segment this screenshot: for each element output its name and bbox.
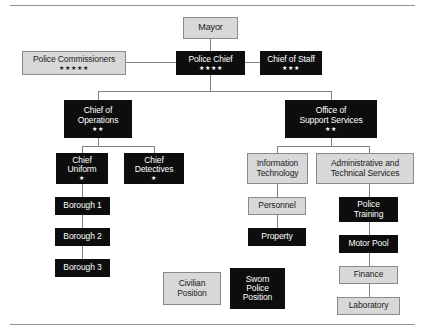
connector-bus-to-support-svcs bbox=[331, 91, 332, 100]
node-personnel-label: Personnel bbox=[258, 201, 295, 210]
connector-borough1-borough2 bbox=[82, 215, 83, 228]
connector-bus-to-info-tech bbox=[277, 146, 278, 153]
connector-bus-to-chief-ops bbox=[98, 91, 99, 100]
node-borough-1-label: Borough 1 bbox=[63, 201, 101, 210]
connector-police-training-motor-pool bbox=[369, 222, 370, 235]
legend-sworn-police-position: Sworn Police Position bbox=[230, 268, 285, 309]
connector-chief-ops-stem bbox=[98, 138, 99, 146]
node-police-commissioners-label: Police Commissioners bbox=[33, 55, 115, 64]
connector-info-tech-personnel bbox=[277, 184, 278, 197]
connector-finance-laboratory bbox=[369, 284, 370, 297]
node-information-technology-label: Information Technology bbox=[256, 159, 298, 177]
legend-sworn-police-position-label: Sworn Police Position bbox=[243, 275, 272, 303]
node-chief-detectives[interactable]: Chief Detectives ★ bbox=[124, 153, 184, 184]
node-borough-3[interactable]: Borough 3 bbox=[55, 259, 110, 277]
node-chief-of-operations-label: Chief of Operations bbox=[78, 106, 119, 124]
node-police-chief[interactable]: Police Chief ★★★★ bbox=[176, 51, 245, 75]
node-borough-2[interactable]: Borough 2 bbox=[55, 228, 110, 246]
node-motor-pool[interactable]: Motor Pool bbox=[339, 235, 398, 253]
legend-civilian-position-label: Civilian Position bbox=[177, 279, 206, 297]
node-police-training[interactable]: Police Training bbox=[339, 197, 398, 222]
org-chart-page: Mayor Police Commissioners ★★★★★ Police … bbox=[0, 0, 425, 335]
node-information-technology[interactable]: Information Technology bbox=[247, 153, 308, 184]
node-laboratory[interactable]: Laboratory bbox=[337, 297, 400, 315]
node-borough-1[interactable]: Borough 1 bbox=[55, 197, 110, 215]
top-divider-rule bbox=[10, 5, 415, 6]
node-administrative-technical-services-label: Administrative and Technical Services bbox=[331, 159, 400, 177]
node-property-label: Property bbox=[261, 232, 292, 241]
node-chief-detectives-label: Chief Detectives bbox=[135, 156, 174, 174]
node-chief-of-operations-stars: ★★ bbox=[92, 126, 104, 132]
legend-civilian-position: Civilian Position bbox=[163, 272, 221, 305]
connector-mayor-police-chief bbox=[210, 39, 211, 51]
connector-personnel-property bbox=[277, 215, 278, 228]
node-administrative-technical-services[interactable]: Administrative and Technical Services bbox=[316, 153, 414, 184]
node-finance-label: Finance bbox=[354, 270, 384, 279]
node-property[interactable]: Property bbox=[248, 228, 306, 246]
connector-chief-ops-bus bbox=[82, 146, 154, 147]
node-police-commissioners-stars: ★★★★★ bbox=[59, 65, 89, 71]
node-police-commissioners[interactable]: Police Commissioners ★★★★★ bbox=[22, 51, 126, 75]
node-police-training-label: Police Training bbox=[354, 200, 384, 218]
node-police-chief-label: Police Chief bbox=[188, 55, 232, 64]
connector-bus-to-admin-tech bbox=[369, 146, 370, 153]
node-chief-detectives-stars: ★ bbox=[151, 175, 157, 181]
node-personnel[interactable]: Personnel bbox=[248, 197, 306, 215]
node-finance[interactable]: Finance bbox=[339, 266, 398, 284]
node-laboratory-label: Laboratory bbox=[349, 301, 389, 310]
connector-motor-pool-finance bbox=[369, 253, 370, 266]
connector-bus-to-chief-uniform bbox=[82, 146, 83, 153]
node-mayor-label: Mayor bbox=[198, 23, 223, 33]
node-chief-of-staff-stars: ★★★ bbox=[282, 65, 300, 71]
node-borough-2-label: Borough 2 bbox=[63, 232, 101, 241]
node-borough-3-label: Borough 3 bbox=[63, 263, 101, 272]
node-police-chief-stars: ★★★★ bbox=[199, 65, 223, 71]
bottom-divider-rule bbox=[10, 324, 415, 325]
connector-police-chief-stem bbox=[210, 75, 211, 91]
node-chief-uniform[interactable]: Chief Uniform ★ bbox=[56, 153, 108, 184]
connector-chief-uniform-borough1 bbox=[82, 184, 83, 197]
node-chief-of-staff-label: Chief of Staff bbox=[267, 55, 315, 64]
node-chief-uniform-label: Chief Uniform bbox=[67, 156, 96, 174]
node-chief-of-staff[interactable]: Chief of Staff ★★★ bbox=[260, 51, 322, 75]
connector-bus-to-chief-detectives bbox=[154, 146, 155, 153]
connector-police-chief-bus bbox=[98, 91, 331, 92]
connector-admin-tech-police-training bbox=[369, 184, 370, 197]
connector-support-svcs-stem bbox=[331, 138, 332, 146]
node-office-of-support-services-label: Office of Support Services bbox=[299, 106, 362, 124]
node-motor-pool-label: Motor Pool bbox=[348, 239, 388, 248]
node-office-of-support-services[interactable]: Office of Support Services ★★ bbox=[285, 100, 377, 138]
node-chief-of-operations[interactable]: Chief of Operations ★★ bbox=[64, 100, 132, 138]
connector-borough2-borough3 bbox=[82, 246, 83, 259]
connector-support-svcs-bus bbox=[277, 146, 369, 147]
node-chief-uniform-stars: ★ bbox=[79, 175, 85, 181]
node-office-of-support-services-stars: ★★ bbox=[325, 126, 337, 132]
node-mayor[interactable]: Mayor bbox=[183, 17, 238, 39]
